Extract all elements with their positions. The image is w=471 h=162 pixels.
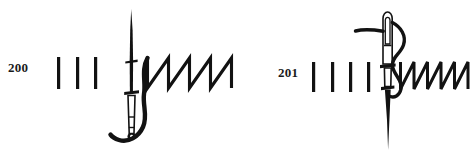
tally-stroke — [349, 62, 352, 92]
illustration-plate: 200 — [0, 0, 471, 162]
figure-200-group: 200 — [0, 0, 240, 162]
tally-stroke — [76, 57, 79, 89]
figure-201-drawing — [240, 0, 471, 162]
figure-201-group: 201 — [240, 0, 471, 162]
figure-200-drawing — [0, 0, 240, 162]
needle-200 — [124, 9, 139, 140]
needle-point-201 — [385, 90, 391, 151]
tally-stroke — [94, 57, 97, 89]
tally-stroke — [331, 62, 334, 92]
zigzag-stitch-201 — [401, 62, 469, 89]
tally-stroke — [312, 62, 315, 92]
needle-point-200 — [130, 9, 133, 94]
tally-strokes-201 — [312, 62, 370, 92]
tally-stroke — [57, 57, 60, 89]
needle-shank-201 — [384, 68, 391, 87]
tally-stroke — [367, 62, 370, 92]
zigzag-stitch-200 — [148, 58, 232, 88]
needle-eye-slot-201 — [385, 17, 390, 44]
thread-tail-201 — [356, 30, 384, 32]
tally-strokes-200 — [57, 57, 97, 89]
